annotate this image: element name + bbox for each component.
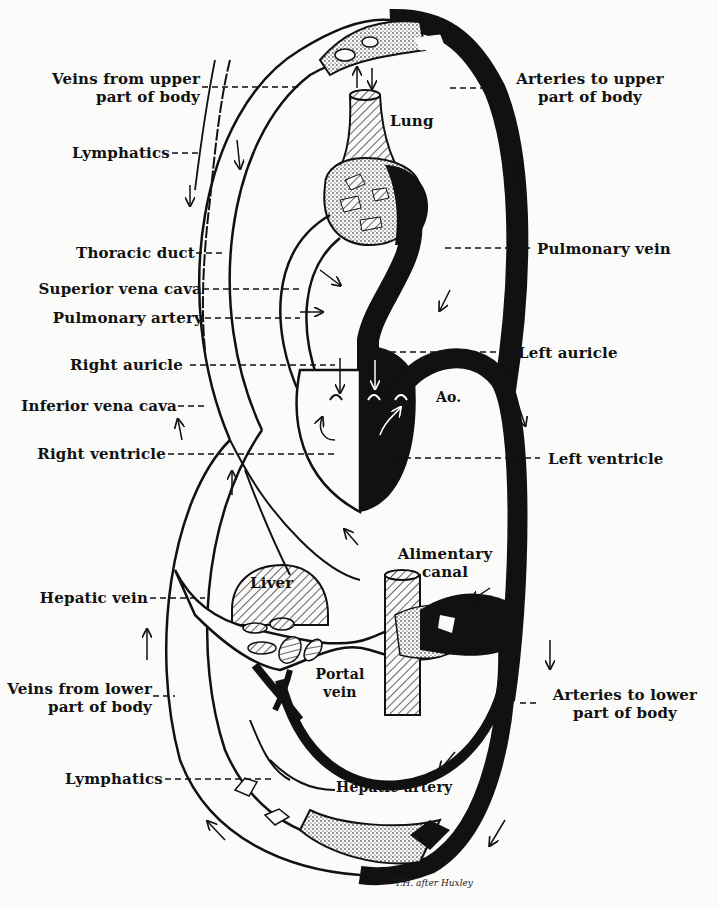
label-right-auricle: Right auricle bbox=[20, 356, 183, 374]
label-left-ventricle: Left ventricle bbox=[548, 450, 664, 468]
label-left-auricle: Left auricle bbox=[518, 344, 618, 362]
label-veins-lower: Veins from lower part of body bbox=[0, 680, 152, 716]
label-inferior-vena-cava: Inferior vena cava bbox=[0, 397, 177, 415]
label-lung: Lung bbox=[390, 112, 434, 130]
label-lymphatics-upper: Lymphatics bbox=[40, 144, 170, 162]
label-pulmonary-vein: Pulmonary vein bbox=[537, 240, 671, 258]
label-right-ventricle: Right ventricle bbox=[0, 445, 166, 463]
label-alimentary-canal: Alimentary canal bbox=[395, 545, 495, 581]
label-liver: Liver bbox=[250, 574, 293, 592]
label-lymphatics-lower: Lymphatics bbox=[20, 770, 163, 788]
label-thoracic-duct: Thoracic duct bbox=[40, 244, 195, 262]
label-superior-vena-cava: Superior vena cava bbox=[10, 280, 202, 298]
label-hepatic-vein: Hepatic vein bbox=[0, 589, 148, 607]
artist-signature: T.H. after Huxley bbox=[395, 878, 473, 888]
label-arteries-lower: Arteries to lower part of body bbox=[535, 686, 715, 722]
circulation-diagram: Veins from upper part of body Lymphatics… bbox=[0, 0, 718, 907]
label-arteries-upper: Arteries to upper part of body bbox=[485, 70, 695, 106]
label-portal-vein: Portal vein bbox=[315, 665, 365, 701]
label-veins-upper: Veins from upper part of body bbox=[30, 70, 200, 106]
label-aorta: Ao. bbox=[436, 388, 461, 406]
label-hepatic-artery: Hepatic artery bbox=[336, 778, 452, 796]
label-pulmonary-artery: Pulmonary artery bbox=[10, 309, 203, 327]
